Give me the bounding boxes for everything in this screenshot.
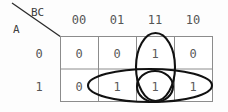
row-header-1: 1 (28, 81, 50, 93)
kmap-cell-r1-c2: 1 (136, 81, 174, 93)
column-header-10: 10 (174, 14, 212, 26)
kmap-cell-r0-c0: 0 (60, 48, 98, 60)
rows-variable-label: A (13, 24, 20, 35)
columns-variable-label: BC (31, 7, 44, 18)
column-header-11: 11 (136, 14, 174, 26)
column-header-01: 01 (98, 14, 136, 26)
kmap-cell-r0-c1: 0 (98, 48, 136, 60)
kmap-cell-r1-c3: 1 (174, 81, 212, 93)
column-header-00: 00 (60, 14, 98, 26)
kmap-cell-r0-c2: 1 (136, 48, 174, 60)
kmap-cell-r0-c3: 0 (174, 48, 212, 60)
kmap-cell-r1-c0: 0 (60, 81, 98, 93)
row-header-0: 0 (28, 48, 50, 60)
kmap-cell-r1-c1: 1 (98, 81, 136, 93)
karnaugh-map-diagram: BC A 00 01 11 10 0 1 0 0 1 0 0 1 1 1 (0, 0, 228, 112)
